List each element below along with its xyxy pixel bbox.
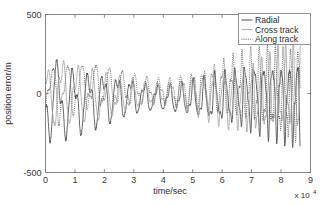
x-tick-label: 2 [102, 175, 107, 185]
figure-container: 0123456789-5000500time/secposition error… [0, 0, 325, 206]
x-tick-label: 4 [161, 175, 166, 185]
x-tick-label: 1 [72, 175, 77, 185]
legend-label-cross-track: Cross track [255, 25, 299, 35]
y-tick-label: -500 [23, 168, 41, 178]
x-tick-label: 3 [131, 175, 136, 185]
legend-label-along-track: Along track [255, 34, 299, 44]
legend-label-radial: Radial [255, 15, 279, 25]
x-tick-label: 0 [43, 175, 48, 185]
x-axis-exponent: x 10 [295, 191, 311, 200]
x-tick-label: 9 [308, 175, 313, 185]
legend[interactable]: RadialCross trackAlong track [239, 14, 311, 45]
x-tick-label: 7 [249, 175, 254, 185]
x-axis-title: time/sec [153, 186, 187, 196]
line-chart: 0123456789-5000500time/secposition error… [0, 0, 325, 206]
y-tick-label: 500 [26, 10, 41, 20]
y-axis-title: position error/m [3, 62, 13, 125]
x-tick-label: 8 [279, 175, 284, 185]
x-tick-label: 5 [190, 175, 195, 185]
x-tick-label: 6 [220, 175, 225, 185]
y-tick-label: 0 [36, 89, 41, 99]
